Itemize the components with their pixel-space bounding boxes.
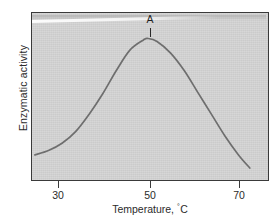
- x-tick-label-50: 50: [137, 189, 163, 201]
- peak-tick-marker: [150, 28, 151, 37]
- x-tick-label-30: 30: [45, 189, 71, 201]
- x-tick-70: [239, 181, 240, 188]
- x-tick-30: [58, 181, 59, 188]
- plot-area: [31, 12, 269, 181]
- x-tick-50: [150, 181, 151, 188]
- x-tick-label-70: 70: [226, 189, 252, 201]
- x-axis-label: Temperature, °C: [31, 203, 269, 215]
- x-axis-unit: C: [180, 203, 188, 215]
- activity-curve: [32, 13, 267, 179]
- activity-curve-path: [35, 38, 250, 168]
- peak-label-a: A: [143, 13, 157, 25]
- y-axis-label: Enzymatic activity: [17, 18, 29, 158]
- x-axis-label-text: Temperature,: [112, 203, 177, 215]
- enzymatic-activity-chart: Enzymatic activity A 30 50 70 Temperatur…: [0, 0, 277, 220]
